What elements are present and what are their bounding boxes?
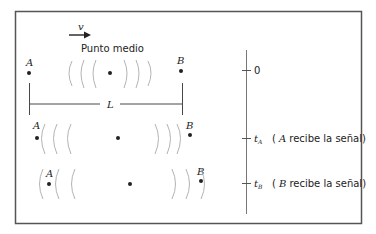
row-a-receives: A B xyxy=(32,120,193,154)
point-a-label: A xyxy=(25,57,33,68)
point-b-label: B xyxy=(185,120,193,131)
point-a-label: A xyxy=(32,120,40,131)
length-dimension xyxy=(30,83,183,115)
point-a xyxy=(35,136,39,140)
point-b xyxy=(188,133,192,137)
point-b-label: B xyxy=(176,55,184,66)
point-a-label: A xyxy=(45,168,53,179)
midpoint-label: Punto medio xyxy=(81,43,144,54)
midpoint xyxy=(128,182,132,186)
tick-a-note: (A recibe la señal) xyxy=(272,133,366,144)
point-a xyxy=(27,71,31,75)
tick-a-symbol: tA xyxy=(254,133,263,145)
length-label: L xyxy=(106,99,114,110)
row-initial: A B L xyxy=(25,55,184,115)
wave-arcs xyxy=(40,169,205,199)
timeline: 0 tA (A recibe la señal) tB (B recibe la… xyxy=(242,50,366,214)
row-b-receives: A B xyxy=(40,166,205,199)
point-a xyxy=(47,182,51,186)
tick-b-symbol: tB xyxy=(254,178,263,190)
simultaneity-diagram: v Punto medio A B L A B xyxy=(0,0,376,234)
point-b xyxy=(199,179,203,183)
midpoint xyxy=(116,136,120,140)
midpoint xyxy=(108,71,112,75)
wave-arcs xyxy=(42,124,181,154)
point-b xyxy=(179,69,183,73)
tick-b-note: (B recibe la señal) xyxy=(272,178,366,189)
velocity-label: v xyxy=(78,21,84,32)
tick-zero-label: 0 xyxy=(254,65,260,76)
velocity-arrow-icon xyxy=(69,32,91,39)
